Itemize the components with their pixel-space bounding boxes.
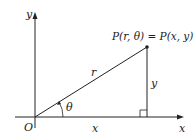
theta-label: θ [66, 102, 73, 113]
y-segment-label: y [151, 78, 157, 89]
right-angle-marker [140, 110, 147, 117]
y-axis-label: y [26, 9, 32, 20]
x-axis-arrow-icon [177, 115, 184, 120]
point-p [145, 45, 149, 49]
radius-line [35, 47, 147, 117]
point-label: P(r, θ) = P(x, y) [112, 31, 193, 42]
r-label: r [91, 67, 96, 78]
x-segment-label: x [92, 123, 98, 134]
x-axis-label: x [179, 123, 185, 134]
origin-label: O [24, 122, 33, 133]
polar-diagram [0, 0, 196, 140]
y-axis-arrow-icon [33, 12, 38, 19]
